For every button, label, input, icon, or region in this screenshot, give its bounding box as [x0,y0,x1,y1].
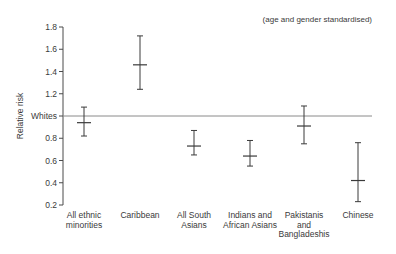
y-tick-label: 0.8 [45,133,57,143]
y-axis: 1.81.61.41.2Whites0.80.60.40.2 [31,22,63,210]
error-bar [77,107,91,136]
y-tick-label: 1.2 [45,89,57,99]
error-bar [243,140,257,166]
x-axis-labels: All ethnicminoritiesCaribbeanAll SouthAs… [66,210,374,239]
chart-annotation: (age and gender standardised) [263,15,373,24]
y-axis-label: Relative risk [15,92,25,139]
error-bars [77,36,365,202]
y-tick-label: 0.6 [45,156,57,166]
error-bar [187,130,201,154]
error-bar [133,36,147,89]
y-tick-label: 0.4 [45,178,57,188]
category-label: Indians andAfrican Asians [223,210,277,230]
category-label: All SouthAsians [177,210,211,230]
y-tick-label: 1.6 [45,44,57,54]
error-bar [351,143,365,202]
category-label: Caribbean [120,210,159,220]
category-label: All ethnicminorities [66,210,102,230]
relative-risk-chart: (age and gender standardised) Relative r… [0,0,396,254]
category-label: PakistanisandBangladeshis [278,210,329,239]
y-tick-label: 0.2 [45,200,57,210]
category-label: Chinese [342,210,373,220]
y-tick-label: 1.8 [45,22,57,32]
error-bar [297,106,311,144]
y-tick-label: 1.4 [45,67,57,77]
y-tick-label: Whites [31,111,57,121]
